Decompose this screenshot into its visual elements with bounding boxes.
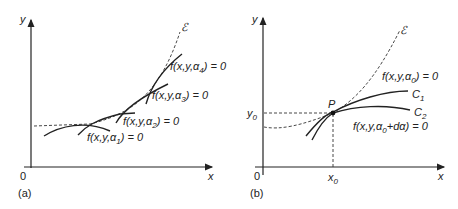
x-axis-label-a: x xyxy=(207,170,214,182)
point-p-label: P xyxy=(328,98,336,110)
origin-label-a: 0 xyxy=(20,170,26,182)
origin-label-b: 0 xyxy=(254,170,260,182)
y0-label: y0 xyxy=(246,107,258,122)
envelope-label-b: ℰ xyxy=(400,24,408,36)
envelope-label-a: ℰ xyxy=(181,21,189,33)
x-axis-label-b: x xyxy=(437,170,444,182)
panel-tag-a: (a) xyxy=(18,187,31,199)
eq-alpha0-dalpha: f(x,y,α0+dα) = 0 xyxy=(353,120,429,135)
point-p xyxy=(331,111,336,116)
label-alpha2: f(x,y,α2) = 0 xyxy=(123,115,180,130)
panel-a: y x 0 (a) ℰ f(x,y,α1) = 0 f(x,y,α2) = 0 … xyxy=(18,13,227,199)
panel-b: y x 0 (b) y0 x0 ℰ P C1 C2 f(x,y,α0) = 0 … xyxy=(246,13,444,199)
label-alpha4: f(x,y,α4) = 0 xyxy=(170,60,227,75)
label-alpha1: f(x,y,α1) = 0 xyxy=(87,131,144,146)
panel-tag-b: (b) xyxy=(250,187,263,199)
x0-label: x0 xyxy=(327,171,339,186)
eq-alpha0: f(x,y,α0) = 0 xyxy=(382,70,439,85)
c2-label: C2 xyxy=(414,106,427,121)
c1-label: C1 xyxy=(412,88,424,103)
y-axis-label-a: y xyxy=(19,13,27,25)
label-alpha3: f(x,y,α3) = 0 xyxy=(152,89,209,104)
y-axis-label-b: y xyxy=(251,13,259,25)
